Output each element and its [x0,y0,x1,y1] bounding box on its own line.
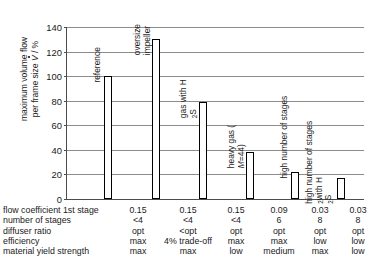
table-cell-r3-c2: max [215,236,257,246]
y-tick-mark-120 [64,52,68,53]
y-tick-mark-140 [64,27,68,28]
plot-area: referenceoversizeimpellergas with H2Shea… [66,27,363,199]
table-cell-r2-c5: opt [339,226,369,236]
bar-caption-4: high number of stages [280,59,290,179]
bar-caption-1-line-0: oversize [132,0,142,55]
bar-caption-5-line-0: high number of stages [305,84,315,204]
table-row: number of stages<4<4<4688 [2,215,369,225]
bar-chart-figure: maximum volume flow per frame size V / %… [0,0,369,273]
table-cell-r4-c3: medium [257,246,301,256]
bar-caption-0-line-0: reference [93,0,103,83]
table-cell-r3-c1: 4% trade-off [161,236,215,246]
bar-caption-2-line-0: gas with H [179,0,189,118]
bar-caption-0: reference [93,0,103,83]
y-tick-mark-60 [64,125,68,126]
subscript: 2 [191,115,198,119]
y-tick-label-80: 80 [36,96,62,105]
table-cell-r1-c0: <4 [115,215,161,225]
subscript: 2 [327,200,334,204]
table-cell-r0-c2: 0.15 [215,205,257,215]
bar-caption-5-line-1: 2with H [314,84,324,204]
bar-caption-5-line-2: 2S [324,84,334,204]
molar-mass-symbol: M [235,162,245,169]
table-cell-r0-c1: 0.15 [161,205,215,215]
table-cell-r4-c2: low [215,246,257,256]
table-cell-r3-c3: max [257,236,301,246]
table-cell-r2-c0: opt [115,226,161,236]
table-cell-r1-c3: 6 [257,215,301,225]
table-cell-r3-c0: max [115,236,161,246]
gridline-120 [67,52,364,53]
bar-2 [199,102,207,199]
table-cell-r1-c4: 8 [301,215,339,225]
table-cell-r4-c4: max [301,246,339,256]
subscript: 2 [317,200,324,204]
table-cell-r0-c3: 0.09 [257,205,301,215]
parameter-table-body: flow coefficient 1st stage0.150.150.150.… [2,205,369,256]
y-tick-mark-20 [64,174,68,175]
y-tick-label-120: 120 [36,47,62,56]
bar-caption-2-line-1: 2S [188,0,198,118]
table-row: material yield strengthmaxmaxlowmediumma… [2,246,369,256]
bar-caption-3-line-0: heavy gas ( [226,49,236,169]
table-row-label-4: material yield strength [2,246,115,256]
table-cell-r0-c4: 0.03 [301,205,339,215]
table-cell-r3-c4: low [301,236,339,246]
parameter-table-grid: flow coefficient 1st stage0.150.150.150.… [2,205,369,256]
y-tick-label-100: 100 [36,72,62,81]
table-cell-r2-c3: opt [257,226,301,236]
bar-caption-4-line-0: high number of stages [280,59,290,179]
y-tick-label-60: 60 [36,121,62,130]
clipped-caption-remnant [6,266,362,273]
y-tick-mark-0 [64,199,68,200]
table-cell-r1-c2: <4 [215,215,257,225]
y-tick-mark-80 [64,101,68,102]
y-axis-title-line1: maximum volume flow [19,0,30,159]
table-row: diffuser ratioopt<optoptoptoptopt [2,226,369,236]
table-cell-r0-c5: 0.03 [339,205,369,215]
y-tick-label-20: 20 [36,170,62,179]
bar-5 [337,178,345,199]
gridline-140 [67,27,364,28]
y-tick-label-40: 40 [36,145,62,154]
y-tick-label-140: 140 [36,23,62,32]
table-cell-r4-c5: low [339,246,369,256]
bar-caption-5: high number of stages2with H2S [305,84,334,204]
bar-caption-1-line-1: impeller [142,0,152,55]
table-cell-r4-c1: max [161,246,215,256]
y-tick-label-0: 0 [36,195,62,204]
table-cell-r4-c0: max [115,246,161,256]
table-row-label-0: flow coefficient 1st stage [2,205,115,215]
bar-0 [104,76,112,199]
y-axis-tick-labels: 020406080100120140 [36,27,62,199]
bar-3 [246,152,254,199]
table-cell-r1-c1: <4 [161,215,215,225]
table-row: efficiencymax4% trade-offmaxmaxlowlow [2,236,369,246]
table-row-label-2: diffuser ratio [2,226,115,236]
table-cell-r2-c4: opt [301,226,339,236]
bar-4 [291,172,299,199]
bar-caption-1: oversizeimpeller [132,0,151,55]
gridline-100 [67,76,364,77]
table-cell-r2-c1: <opt [161,226,215,236]
table-cell-r0-c0: 0.15 [115,205,161,215]
table-cell-r2-c2: opt [215,226,257,236]
table-row: flow coefficient 1st stage0.150.150.150.… [2,205,369,215]
table-row-label-1: number of stages [2,215,115,225]
bar-caption-2: gas with H2S [179,0,198,118]
y-tick-mark-40 [64,150,68,151]
table-cell-r3-c5: low [339,236,369,246]
table-cell-r1-c5: 8 [339,215,369,225]
bar-caption-3-line-1: M=44) [236,49,246,169]
table-row-label-3: efficiency [2,236,115,246]
bar-caption-3: heavy gas (M=44) [226,49,245,169]
bar-1 [152,39,160,199]
parameter-table: flow coefficient 1st stage0.150.150.150.… [2,205,367,256]
y-tick-mark-100 [64,76,68,77]
